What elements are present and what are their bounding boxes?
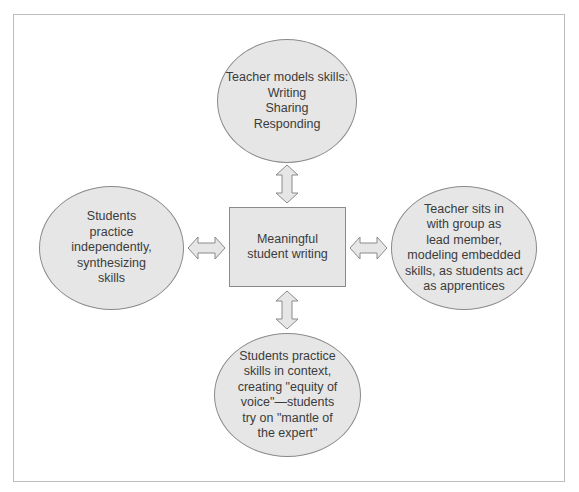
right-line-1: Teacher sits in xyxy=(405,202,523,218)
bottom-line-2: skills in context, xyxy=(238,364,338,380)
top-line-4: Responding xyxy=(226,117,348,133)
left-line-5: skills xyxy=(71,271,151,287)
center-box-meaningful-writing: Meaningful student writing xyxy=(229,207,346,287)
top-line-2: Writing xyxy=(226,86,348,102)
bottom-ellipse-students-in-context: Students practice skills in context, cre… xyxy=(214,333,361,457)
center-line-2: student writing xyxy=(247,247,328,263)
top-line-3: Sharing xyxy=(226,101,348,117)
right-line-3: lead member, xyxy=(405,233,523,249)
top-ellipse-teacher-models: Teacher models skills: Writing Sharing R… xyxy=(217,39,357,163)
top-line-1: Teacher models skills: xyxy=(226,70,348,86)
right-line-2: with group as xyxy=(405,217,523,233)
left-line-3: independently, xyxy=(71,240,151,256)
bottom-line-3: creating "equity of xyxy=(238,380,338,396)
right-line-4: modeling embedded xyxy=(405,248,523,264)
center-line-1: Meaningful xyxy=(247,232,328,248)
double-arrow-vertical-bottom-icon xyxy=(275,290,299,330)
right-ellipse-teacher-sits-in: Teacher sits in with group as lead membe… xyxy=(391,186,537,310)
left-line-4: synthesizing xyxy=(71,256,151,272)
double-arrow-horizontal-right-icon xyxy=(349,236,388,260)
double-arrow-horizontal-left-icon xyxy=(187,236,226,260)
left-line-2: practice xyxy=(71,225,151,241)
left-line-1: Students xyxy=(71,209,151,225)
left-ellipse-students-independent: Students practice independently, synthes… xyxy=(39,186,184,310)
bottom-line-6: the expert" xyxy=(238,426,338,442)
bottom-line-5: try on "mantle of xyxy=(238,411,338,427)
double-arrow-vertical-top-icon xyxy=(275,164,299,204)
bottom-line-4: voice"—students xyxy=(238,395,338,411)
right-line-5: skills, as students act xyxy=(405,264,523,280)
right-line-6: as apprentices xyxy=(405,279,523,295)
bottom-line-1: Students practice xyxy=(238,349,338,365)
